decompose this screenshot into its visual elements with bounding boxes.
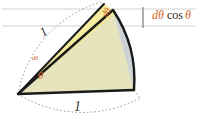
label-projection-cos: cos — [167, 8, 183, 22]
label-dtheta-at-origin: dθ — [32, 55, 38, 61]
label-angle-theta: θ — [38, 70, 43, 81]
label-projection-theta: θ — [185, 8, 191, 22]
label-projection-expression: dθcosθ — [152, 9, 191, 21]
label-projection-dtheta: dθ — [152, 8, 164, 22]
diagram-canvas: 1 1 θ dθ dθ dθcosθ — [0, 0, 210, 124]
label-radius-lower: 1 — [74, 100, 81, 114]
outer-arc-dashed — [134, 90, 140, 98]
